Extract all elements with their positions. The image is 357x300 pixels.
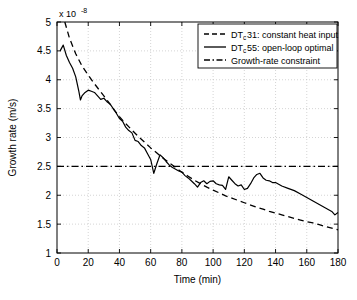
growth-rate-plot: 02040608010012014016018011.522.533.544.5… bbox=[0, 0, 357, 300]
x-tick-label: 80 bbox=[176, 257, 188, 268]
y-tick-label: 2 bbox=[45, 190, 51, 201]
y-tick-label: 3 bbox=[45, 132, 51, 143]
y-axis-label: Growth rate (m/s) bbox=[7, 99, 18, 177]
x-tick-label: 160 bbox=[298, 257, 315, 268]
y-tick-label: 1 bbox=[45, 248, 51, 259]
x-tick-label: 60 bbox=[145, 257, 157, 268]
x-tick-label: 20 bbox=[83, 257, 95, 268]
y-tick-label: 5 bbox=[45, 17, 51, 28]
legend-label-suffix-0: 31: constant heat input bbox=[247, 30, 339, 40]
x-tick-label: 40 bbox=[114, 257, 126, 268]
legend-label-2: Growth-rate constraint bbox=[231, 56, 321, 66]
legend-label-prefix-0: DT bbox=[231, 30, 243, 40]
x-tick-label: 120 bbox=[236, 257, 253, 268]
chart-figure-container: 02040608010012014016018011.522.533.544.5… bbox=[0, 0, 357, 300]
y-tick-label: 1.5 bbox=[37, 219, 51, 230]
x-tick-label: 140 bbox=[267, 257, 284, 268]
x-tick-label: 180 bbox=[330, 257, 347, 268]
x-tick-label: 0 bbox=[54, 257, 60, 268]
y-tick-label: 3.5 bbox=[37, 103, 51, 114]
x-axis-label: Time (min) bbox=[174, 274, 221, 285]
y-axis-exponent-base: x 10 bbox=[59, 9, 76, 19]
series-line-1 bbox=[60, 45, 338, 215]
y-tick-label: 4.5 bbox=[37, 45, 51, 56]
legend-label-prefix-1: DT bbox=[231, 43, 243, 53]
legend-label-suffix-1: 55: open-loop optimal bbox=[247, 43, 334, 53]
y-axis-exponent: x 10-8 bbox=[59, 7, 87, 19]
legend: DTc31: constant heat inputDTc55: open-lo… bbox=[198, 24, 339, 68]
y-tick-label: 2.5 bbox=[37, 161, 51, 172]
y-tick-label: 4 bbox=[45, 74, 51, 85]
x-tick-label: 100 bbox=[205, 257, 222, 268]
y-axis-exponent-superscript: -8 bbox=[81, 7, 87, 14]
